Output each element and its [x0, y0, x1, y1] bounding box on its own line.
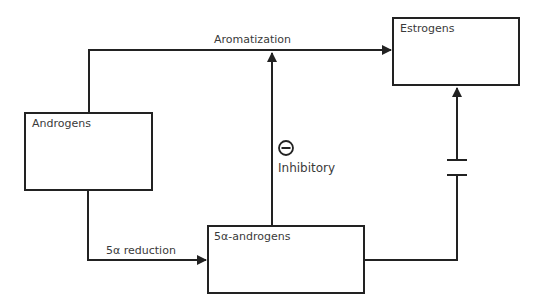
diagram-canvas: Aromatization 5α reduction Inhibitory An… — [0, 0, 540, 308]
aromatization-label: Aromatization — [214, 33, 291, 46]
minus-circle-icon — [279, 141, 293, 155]
androgens-label: Androgens — [32, 117, 91, 130]
aromatization-arrow — [89, 50, 391, 113]
inhibitory-label: Inhibitory — [278, 161, 335, 175]
5a-androgens-label: 5α-androgens — [214, 230, 290, 243]
5a-reduction-label: 5α reduction — [106, 244, 176, 257]
blocked-pathway-lower — [364, 175, 457, 260]
estrogens-label: Estrogens — [400, 22, 454, 35]
diagram-lines — [0, 0, 540, 308]
